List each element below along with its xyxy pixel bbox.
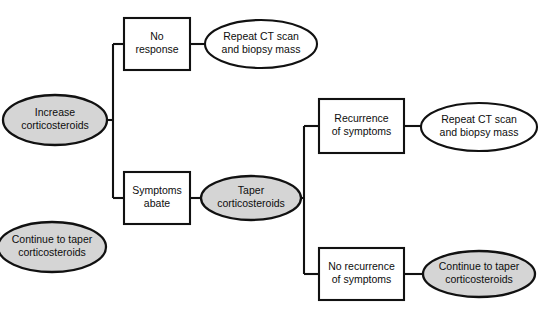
node-repeat-ct-scan-biopsy-top[interactable]: Repeat CT scanand biopsy mass [205,20,317,68]
node-continue-to-taper-left[interactable]: Continue to tapercorticosteroids [0,222,106,272]
node-increase-corticosteroids[interactable]: Increasecorticosteroids [3,95,107,145]
flowchart-canvas: IncreasecorticosteroidsNoresponseRepeat … [0,0,553,321]
node-label-recurrence-of-symptoms-line-2: of symptoms [332,125,392,137]
node-recurrence-of-symptoms[interactable]: Recurrenceof symptoms [319,99,404,153]
node-label-no-response-line-2: response [135,43,178,55]
node-label-recurrence-of-symptoms-line-1: Recurrence [334,112,388,124]
node-taper-corticosteroids[interactable]: Tapercorticosteroids [201,176,301,220]
node-label-continue-to-taper-right-line-2: corticosteroids [445,273,513,285]
node-label-no-response-line-1: No [150,30,164,42]
node-label-continue-to-taper-right-line-1: Continue to taper [439,260,520,272]
node-label-taper-corticosteroids-line-2: corticosteroids [217,197,285,209]
node-label-increase-corticosteroids-line-2: corticosteroids [21,119,89,131]
node-label-repeat-ct-scan-biopsy-top-line-1: Repeat CT scan [223,30,299,42]
flowchart-svg: IncreasecorticosteroidsNoresponseRepeat … [0,0,553,321]
connector-layer [107,44,423,274]
node-layer: IncreasecorticosteroidsNoresponseRepeat … [0,18,537,300]
node-no-recurrence-of-symptoms[interactable]: No recurrenceof symptoms [319,248,404,300]
node-label-repeat-ct-scan-biopsy-middle-line-2: and biopsy mass [440,126,519,138]
node-label-symptoms-abate-line-2: abate [144,197,170,209]
node-repeat-ct-scan-biopsy-middle[interactable]: Repeat CT scanand biopsy mass [421,103,537,151]
node-label-repeat-ct-scan-biopsy-top-line-2: and biopsy mass [222,43,301,55]
node-label-increase-corticosteroids-line-1: Increase [35,106,75,118]
node-label-no-recurrence-of-symptoms-line-1: No recurrence [328,260,395,272]
node-label-continue-to-taper-left-line-2: corticosteroids [18,246,86,258]
node-label-no-recurrence-of-symptoms-line-2: of symptoms [332,273,392,285]
node-continue-to-taper-right[interactable]: Continue to tapercorticosteroids [423,251,535,297]
node-no-response[interactable]: Noresponse [124,18,190,70]
node-label-symptoms-abate-line-1: Symptoms [132,184,182,196]
node-label-continue-to-taper-left-line-1: Continue to taper [12,233,93,245]
node-label-taper-corticosteroids-line-1: Taper [238,184,265,196]
node-symptoms-abate[interactable]: Symptomsabate [124,172,190,224]
node-label-repeat-ct-scan-biopsy-middle-line-1: Repeat CT scan [441,113,517,125]
